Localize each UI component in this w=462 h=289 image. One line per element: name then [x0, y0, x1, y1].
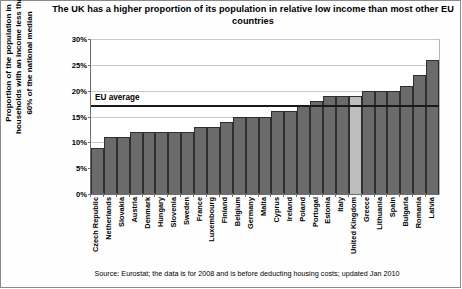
x-axis-label-cell: Malta — [258, 197, 271, 259]
x-axis-tick-label: Malta — [260, 197, 268, 216]
bar-cell — [246, 39, 259, 194]
y-axis-title: Proportion of the population in househol… — [4, 0, 48, 143]
x-axis-tick-mark — [129, 193, 130, 197]
bar — [284, 111, 297, 194]
source-note: Source: Eurostat; the data is for 2008 a… — [47, 269, 447, 278]
x-axis-label-cell: Denmark — [142, 197, 155, 259]
x-axis-tick-label: Hungary — [157, 197, 165, 227]
bar-cell — [349, 39, 362, 194]
plot-area: 0%5%10%15%20%25%30% EU average — [90, 39, 439, 195]
bar — [336, 96, 349, 194]
bar-cell — [400, 39, 413, 194]
x-axis-label-cell: Germany — [245, 197, 258, 259]
x-axis-label-cell: Slovakia — [116, 197, 129, 259]
x-axis-labels: Czech RepublicNetherlandsSlovakiaAustria… — [90, 197, 438, 259]
x-axis-tick-label: Denmark — [144, 197, 152, 229]
bar — [246, 117, 259, 195]
x-axis-tick-label: Poland — [299, 197, 307, 222]
bar — [233, 117, 246, 195]
x-axis-tick-label: Spain — [389, 197, 397, 217]
x-axis-tick-mark — [270, 193, 271, 197]
y-axis-tick-label: 5% — [76, 164, 87, 173]
x-axis-tick-label: France — [196, 197, 204, 221]
x-axis-label-cell: Cyprus — [270, 197, 283, 259]
bar-cell — [323, 39, 336, 194]
x-axis-label-cell: Netherlands — [103, 197, 116, 259]
bar-cell — [271, 39, 284, 194]
bar-cell — [259, 39, 272, 194]
x-axis-tick-label: Romania — [415, 197, 423, 228]
bar-cell — [284, 39, 297, 194]
y-axis-tick-label: 10% — [72, 138, 87, 147]
x-axis-label-cell: Finland — [219, 197, 232, 259]
bar-cell — [143, 39, 156, 194]
x-axis-label-cell: Poland — [296, 197, 309, 259]
bar — [259, 117, 272, 195]
bar-cell — [155, 39, 168, 194]
plot-right-border — [439, 39, 440, 195]
bar-cell — [220, 39, 233, 194]
bar — [104, 137, 117, 194]
x-axis-label-cell: France — [193, 197, 206, 259]
eu-average-line — [91, 105, 439, 107]
x-axis-label-cell: Italy — [335, 197, 348, 259]
x-axis-tick-label: Luxembourg — [208, 197, 216, 242]
x-axis-tick-label: Greece — [363, 197, 371, 222]
eu-average-label: EU average — [93, 93, 142, 102]
bar — [143, 132, 156, 194]
x-axis-label-cell: Greece — [361, 197, 374, 259]
bar — [117, 137, 130, 194]
bar-series — [91, 39, 439, 194]
x-axis-tick-label: Netherlands — [105, 197, 113, 240]
x-axis-tick-label: United Kingdom — [350, 197, 358, 254]
bar-cell — [310, 39, 323, 194]
x-axis-label-cell: Hungary — [154, 197, 167, 259]
x-axis-label-cell: Portugal — [309, 197, 322, 259]
x-axis-tick-label: Czech Republic — [92, 197, 100, 252]
x-axis-label-cell: Czech Republic — [90, 197, 103, 259]
x-axis-label-cell: Sweden — [180, 197, 193, 259]
x-axis-label-cell: Ireland — [283, 197, 296, 259]
bar-cell — [181, 39, 194, 194]
x-axis-tick-mark — [425, 193, 426, 197]
x-axis-label-cell: Lithuania — [374, 197, 387, 259]
x-axis-label-cell: Latvia — [425, 197, 438, 259]
bar — [413, 75, 426, 194]
x-axis-tick-label: Ireland — [286, 197, 294, 221]
bar — [155, 132, 168, 194]
bar-cell — [233, 39, 246, 194]
bar-cell — [130, 39, 143, 194]
y-axis-title-line1: Proportion of the population in — [4, 4, 13, 121]
x-axis-tick-label: Slovakia — [118, 197, 126, 227]
x-axis-label-cell: Luxembourg — [206, 197, 219, 259]
x-axis-tick-mark — [167, 193, 168, 197]
x-axis-tick-label: Lithuania — [376, 197, 384, 230]
x-axis-tick-label: Cyprus — [273, 197, 281, 222]
y-axis-title-line3: 60% of the national median — [25, 11, 34, 114]
bar — [323, 96, 336, 194]
y-axis-tick-label: 20% — [72, 86, 87, 95]
bar-cell — [104, 39, 117, 194]
x-axis-tick-label: Latvia — [428, 197, 436, 218]
x-axis-tick-label: Belgium — [234, 197, 242, 226]
x-axis-tick-label: Slovenia — [170, 197, 178, 227]
x-axis-label-cell: Bulgaria — [399, 197, 412, 259]
chart-frame: The UK has a higher proportion of its po… — [0, 0, 461, 288]
x-axis-label-cell: Belgium — [232, 197, 245, 259]
bar — [220, 122, 233, 194]
bar — [297, 106, 310, 194]
y-axis-tick-label: 15% — [72, 112, 87, 121]
x-axis-tick-label: Sweden — [183, 197, 191, 225]
bar — [426, 60, 439, 194]
bar-cell — [207, 39, 220, 194]
bar-cell — [375, 39, 388, 194]
bar-cell — [336, 39, 349, 194]
x-axis-label-cell: Romania — [412, 197, 425, 259]
bar — [181, 132, 194, 194]
x-axis-tick-label: Estonia — [324, 197, 332, 224]
bar-cell — [194, 39, 207, 194]
y-axis-tick-label: 0% — [76, 190, 87, 199]
bar-cell — [362, 39, 375, 194]
bar-cell — [91, 39, 104, 194]
x-axis-label-cell: Estonia — [322, 197, 335, 259]
